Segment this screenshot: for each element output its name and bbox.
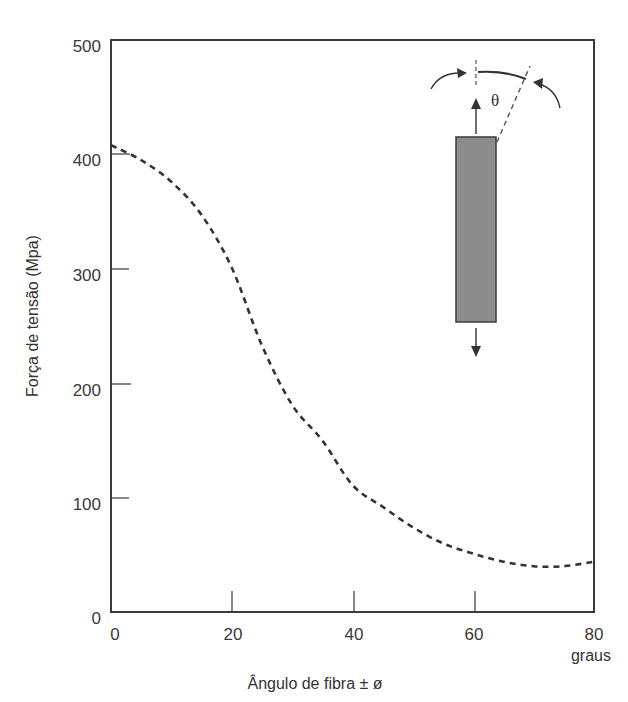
y-tick-200: 200 [73, 381, 101, 400]
y-tick-400: 400 [73, 151, 101, 170]
plot-frame [111, 40, 594, 612]
right-rotation-arrow-icon [539, 84, 560, 108]
y-tick-0: 0 [92, 609, 101, 628]
y-tick-labels: 500 400 300 200 100 0 [73, 37, 101, 628]
up-arrowhead-icon [471, 98, 481, 109]
fibre-direction-dashed-line [497, 66, 530, 142]
down-arrowhead-icon [471, 346, 481, 357]
specimen-bar [456, 137, 496, 322]
y-tick-300: 300 [73, 266, 101, 285]
angle-arc [478, 72, 526, 79]
data-curve [111, 145, 594, 567]
left-arrowhead-icon [457, 68, 467, 78]
y-axis-label: Força de tensão (Mpa) [24, 235, 41, 397]
chart: 500 400 300 200 100 0 0 20 40 60 80 grau… [0, 0, 628, 702]
x-tick-60: 60 [465, 625, 484, 644]
specimen-diagram: θ [431, 60, 560, 357]
x-tick-40: 40 [345, 625, 364, 644]
x-tick-0: 0 [110, 625, 119, 644]
x-tick-labels: 0 20 40 60 80 [110, 625, 603, 644]
y-tick-500: 500 [73, 37, 101, 56]
y-axis-ticks [111, 154, 131, 498]
x-tick-80: 80 [585, 625, 604, 644]
left-rotation-arrow-icon [431, 73, 462, 89]
x-tick-20: 20 [224, 625, 243, 644]
y-tick-100: 100 [73, 495, 101, 514]
x-axis-label: Ângulo de fibra ± ø [247, 674, 382, 692]
theta-symbol: θ [491, 91, 499, 110]
right-arrowhead-icon [533, 78, 543, 89]
x-unit-label: graus [571, 647, 611, 664]
x-axis-ticks [232, 591, 475, 612]
